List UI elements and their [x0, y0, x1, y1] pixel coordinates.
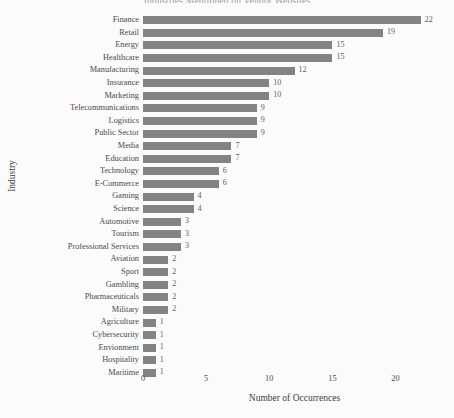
- bar-value-label: 3: [185, 240, 189, 253]
- bar: [143, 155, 231, 163]
- category-tick-label: Professional Services: [3, 241, 143, 254]
- bar: [143, 319, 156, 327]
- bar-row: 1: [143, 342, 446, 355]
- category-tick-label: Agriculture: [3, 316, 143, 329]
- category-tick-label: Finance: [3, 14, 143, 27]
- x-tick-label: 15: [328, 374, 336, 383]
- category-tick-label: Insurance: [3, 77, 143, 90]
- bar-value-label: 2: [172, 291, 176, 304]
- x-tick-label: 5: [204, 374, 208, 383]
- bar-row: 15: [143, 39, 446, 52]
- bar-value-label: 2: [172, 278, 176, 291]
- bar-row: 3: [143, 228, 446, 241]
- x-axis: 05101520: [143, 374, 446, 390]
- category-tick-label: Aviation: [3, 253, 143, 266]
- category-tick-label: Energy: [3, 39, 143, 52]
- bar: [143, 293, 168, 301]
- bar-row: 19: [143, 27, 446, 40]
- bar-row: 9: [143, 102, 446, 115]
- bar-row: 1: [143, 316, 446, 329]
- bar-row: 7: [143, 140, 446, 153]
- bar-value-label: 22: [425, 14, 433, 27]
- x-tick-label: 10: [265, 374, 273, 383]
- category-tick-label: Automotive: [3, 216, 143, 229]
- category-tick-label: Sport: [3, 266, 143, 279]
- bar-value-label: 1: [160, 329, 164, 342]
- category-tick-label: Gaming: [3, 190, 143, 203]
- bar: [143, 54, 332, 62]
- category-tick-label: Cybersecurity: [3, 329, 143, 342]
- bar-row: 6: [143, 178, 446, 191]
- bar-value-label: 7: [235, 140, 239, 153]
- bar: [143, 142, 231, 150]
- bar-value-label: 9: [261, 114, 265, 127]
- category-tick-label: Telecommunications: [3, 102, 143, 115]
- bar: [143, 256, 168, 264]
- bar: [143, 331, 156, 339]
- bar-value-label: 6: [223, 165, 227, 178]
- bar-value-label: 1: [160, 341, 164, 354]
- bar: [143, 268, 168, 276]
- bar-row: 2: [143, 279, 446, 292]
- bar-value-label: 10: [273, 89, 281, 102]
- category-tick-label: Media: [3, 140, 143, 153]
- category-tick-label: Science: [3, 203, 143, 216]
- x-tick-label: 0: [141, 374, 145, 383]
- category-tick-label: Pharmaceuticals: [3, 291, 143, 304]
- bar: [143, 67, 295, 75]
- bar: [143, 243, 181, 251]
- bar-value-label: 3: [185, 215, 189, 228]
- bar-value-label: 12: [299, 64, 307, 77]
- bar: [143, 281, 168, 289]
- bar-chart-figure: Industries Mentioned on Vendor Websites …: [0, 0, 454, 418]
- bar-row: 3: [143, 216, 446, 229]
- bar-value-label: 2: [172, 266, 176, 279]
- bar-row: 10: [143, 90, 446, 103]
- category-tick-label: Envionment: [3, 342, 143, 355]
- category-tick-label: Logistics: [3, 115, 143, 128]
- bar: [143, 180, 219, 188]
- category-tick-label: Manufacturing: [3, 64, 143, 77]
- bar-row: 2: [143, 253, 446, 266]
- bar: [143, 205, 194, 213]
- bar-value-label: 1: [160, 316, 164, 329]
- bar-value-label: 6: [223, 177, 227, 190]
- bar-value-label: 15: [336, 51, 344, 64]
- bar-value-label: 1: [160, 354, 164, 367]
- bar-value-label: 9: [261, 102, 265, 115]
- plot-area: 221915151210109997766443332222211111: [143, 14, 446, 372]
- category-axis: FinanceRetailEnergyHealthcareManufacturi…: [0, 14, 143, 372]
- bar: [143, 306, 168, 314]
- bar-value-label: 9: [261, 127, 265, 140]
- bar-row: 12: [143, 64, 446, 77]
- bar: [143, 344, 156, 352]
- category-tick-label: E-Commerce: [3, 178, 143, 191]
- category-tick-label: Gambling: [3, 279, 143, 292]
- x-tick-label: 20: [391, 374, 399, 383]
- category-tick-label: Healthcare: [3, 52, 143, 65]
- category-tick-label: Marketing: [3, 90, 143, 103]
- bar-value-label: 4: [198, 203, 202, 216]
- bar-row: 1: [143, 354, 446, 367]
- x-axis-label: Number of Occurrences: [143, 393, 446, 403]
- bar-row: 15: [143, 52, 446, 65]
- category-tick-label: Public Sector: [3, 127, 143, 140]
- bar-row: 22: [143, 14, 446, 27]
- bar: [143, 104, 257, 112]
- bar-value-label: 10: [273, 77, 281, 90]
- bar-row: 2: [143, 291, 446, 304]
- bar-row: 6: [143, 165, 446, 178]
- bar-row: 2: [143, 266, 446, 279]
- bar-value-label: 15: [336, 39, 344, 52]
- bar-row: 10: [143, 77, 446, 90]
- category-tick-label: Retail: [3, 27, 143, 40]
- bar-value-label: 19: [387, 26, 395, 39]
- bar-row: 7: [143, 153, 446, 166]
- bar-value-label: 2: [172, 253, 176, 266]
- bar: [143, 356, 156, 364]
- y-axis-label: Industry: [7, 126, 17, 226]
- category-tick-label: Tourism: [3, 228, 143, 241]
- bar: [143, 230, 181, 238]
- category-tick-label: Technology: [3, 165, 143, 178]
- bar-value-label: 2: [172, 303, 176, 316]
